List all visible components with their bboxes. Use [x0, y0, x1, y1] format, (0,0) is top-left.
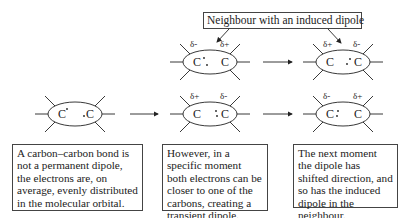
- carbon-right: C: [354, 55, 362, 69]
- carbon-left: C: [58, 107, 66, 121]
- charge-right: δ-: [353, 39, 360, 49]
- carbon-left: C: [326, 55, 334, 69]
- charge-left: δ+: [190, 91, 199, 101]
- caption-neutral: A carbon–carbon bond is not a permanent …: [12, 144, 143, 211]
- carbon-right: C: [221, 55, 229, 69]
- carbon-left: C: [193, 107, 201, 121]
- charge-right: δ-: [220, 91, 227, 101]
- carbon-left: C: [326, 107, 334, 121]
- caption-transient: However, in a specific moment both elect…: [162, 144, 268, 211]
- carbon-left: C: [193, 55, 201, 69]
- carbon-right: C: [221, 107, 229, 121]
- charge-left: δ+: [323, 39, 332, 49]
- charge-right: δ+: [220, 39, 229, 49]
- neighbour-molecule-2: C C δ+ δ-: [303, 39, 383, 80]
- neutral-molecule: C C: [35, 96, 115, 132]
- charge-left: δ-: [190, 39, 197, 49]
- neighbour-label: Neighbour with an induced dipole: [203, 12, 362, 29]
- carbon-right: C: [86, 107, 94, 121]
- charge-left: δ-: [323, 91, 330, 101]
- shifted-dipole-molecule: C C δ- δ+: [303, 91, 383, 132]
- neighbour-molecule-1: C C δ- δ+: [170, 39, 250, 80]
- charge-right: δ+: [353, 91, 362, 101]
- caption-shifted: The next moment the dipole has shifted d…: [293, 144, 398, 208]
- transient-dipole-molecule: C C δ+ δ-: [170, 91, 250, 132]
- carbon-right: C: [354, 107, 362, 121]
